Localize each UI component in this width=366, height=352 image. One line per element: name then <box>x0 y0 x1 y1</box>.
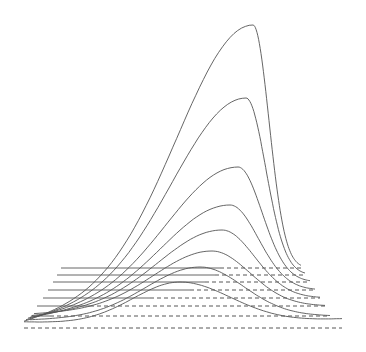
curve-5 <box>32 230 320 316</box>
curve-4 <box>30 205 315 317</box>
curve-3 <box>28 167 310 318</box>
curve-1 <box>24 25 301 321</box>
waterfall-chart <box>0 0 366 352</box>
baselines <box>24 268 342 328</box>
curve-2 <box>26 98 305 320</box>
curves <box>24 25 342 322</box>
waterfall-plot <box>0 0 366 352</box>
